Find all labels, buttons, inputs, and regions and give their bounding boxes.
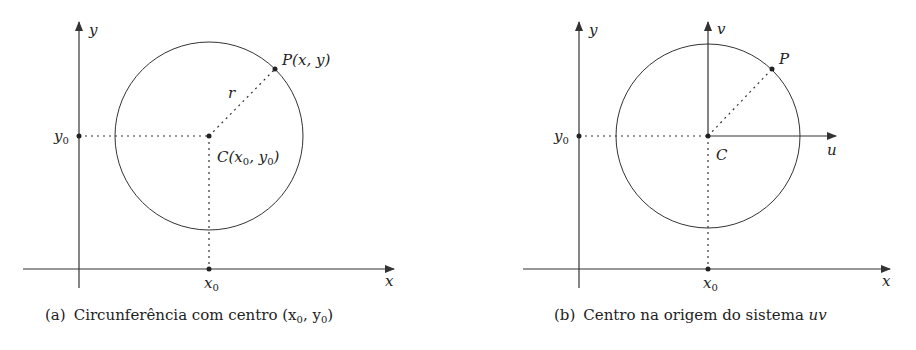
point-p	[273, 67, 278, 72]
radius-label: r	[228, 84, 236, 102]
radius-dotted-line	[708, 69, 772, 136]
center-point	[207, 134, 212, 139]
center-label: C(x0, y0)	[217, 148, 280, 167]
y-axis-label: y	[588, 21, 598, 39]
point-p-label: P	[778, 50, 790, 68]
x-axis-label: x	[385, 272, 394, 290]
x0-point	[207, 267, 212, 272]
x-axis-label: x	[882, 272, 891, 290]
y-axis-label: y	[88, 21, 98, 39]
y0-point	[77, 134, 82, 139]
x0-label: x0	[703, 274, 718, 293]
u-axis-label: u	[827, 141, 837, 159]
v-axis-label: v	[717, 20, 726, 38]
caption-b: (b)Centro na origem do sistema uv	[554, 306, 827, 324]
y0-label: y0	[53, 127, 69, 146]
y0-point	[577, 134, 582, 139]
caption-a: (a)Circunferência com centro (x0, y0)	[45, 306, 333, 325]
panel-a: y x y0 x0 P(x, y) r C(x0, y0) (a)Circunf…	[23, 21, 394, 325]
center-label: C	[716, 146, 728, 164]
x0-label: x0	[204, 274, 219, 293]
radius-dotted-line	[209, 69, 275, 136]
point-p-label: P(x, y)	[281, 51, 330, 69]
x0-point	[706, 267, 711, 272]
point-p	[770, 67, 775, 72]
y0-label: y0	[553, 127, 569, 146]
figure: y x y0 x0 P(x, y) r C(x0, y0) (a)Circunf…	[0, 0, 916, 350]
panel-b: y v u x y0 x0 P C (b)Centro na origem do…	[523, 20, 891, 324]
center-point	[706, 134, 711, 139]
